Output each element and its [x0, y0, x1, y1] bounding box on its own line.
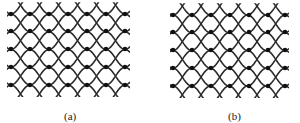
lattice-dot — [171, 48, 176, 53]
lattice-dot — [9, 83, 14, 88]
lattice-dot — [266, 48, 271, 53]
lattice-dot — [190, 13, 195, 18]
lattice-dot — [9, 47, 14, 52]
lattice-dot — [190, 48, 195, 53]
lattice-dot — [9, 29, 14, 34]
lattice-dot — [123, 12, 128, 17]
lattice-dot — [28, 83, 33, 88]
lattice-dot — [228, 84, 233, 89]
lattice-dot — [104, 65, 109, 70]
lattice-dot — [123, 83, 128, 88]
lattice-dot — [171, 84, 176, 89]
lattice-dot — [247, 84, 252, 89]
lattice-dot — [104, 47, 109, 52]
figure-panel-b: (b) — [150, 0, 300, 123]
lattice-dot — [66, 12, 71, 17]
lattice-dot — [266, 84, 271, 89]
lattice-dot — [228, 30, 233, 35]
lattice-dot — [171, 13, 176, 18]
lattice-dot — [9, 12, 14, 17]
lattice-dot — [66, 65, 71, 70]
lattice-dot — [283, 48, 288, 53]
lattice-dot — [266, 66, 271, 71]
lattice-dot — [47, 12, 52, 17]
lattice-dot — [190, 84, 195, 89]
lattice-dot — [104, 29, 109, 34]
lattice-dot — [47, 83, 52, 88]
lattice-dot — [209, 66, 214, 71]
lattice-dot — [85, 47, 90, 52]
lattice-diagram-a — [0, 0, 150, 123]
lattice-dot — [9, 65, 14, 70]
lattice-dot — [85, 29, 90, 34]
panel-label-b: (b) — [228, 110, 241, 122]
lattice-dot — [85, 12, 90, 17]
lattice-dot — [85, 65, 90, 70]
figure-panel-a: (a) — [0, 0, 150, 123]
lattice-dot — [228, 48, 233, 53]
lattice-dot — [209, 30, 214, 35]
lattice-dot — [47, 65, 52, 70]
lattice-dot — [85, 83, 90, 88]
lattice-dot — [228, 66, 233, 71]
lattice-dot — [209, 84, 214, 89]
lattice-dot — [283, 30, 288, 35]
lattice-dot — [104, 12, 109, 17]
lattice-dot — [283, 13, 288, 18]
lattice-diagram-b — [150, 0, 300, 123]
lattice-dot — [28, 65, 33, 70]
lattice-dot — [266, 13, 271, 18]
lattice-dot — [228, 13, 233, 18]
wave-line — [6, 85, 130, 103]
lattice-dot — [283, 84, 288, 89]
lattice-dot — [66, 29, 71, 34]
lattice-dot — [247, 30, 252, 35]
lattice-dot — [123, 29, 128, 34]
lattice-dot — [247, 66, 252, 71]
lattice-dot — [247, 48, 252, 53]
lattice-dot — [47, 29, 52, 34]
wave-line — [169, 86, 289, 104]
lattice-dot — [171, 30, 176, 35]
wave-line — [169, 0, 289, 15]
lattice-dot — [28, 12, 33, 17]
lattice-dot — [123, 65, 128, 70]
lattice-dot — [171, 66, 176, 71]
lattice-dot — [209, 13, 214, 18]
lattice-dot — [247, 13, 252, 18]
panel-label-a: (a) — [64, 110, 76, 122]
lattice-dot — [266, 30, 271, 35]
lattice-dot — [209, 48, 214, 53]
lattice-dot — [66, 83, 71, 88]
lattice-dot — [283, 66, 288, 71]
lattice-dot — [123, 47, 128, 52]
lattice-dot — [190, 66, 195, 71]
lattice-dot — [47, 47, 52, 52]
lattice-dot — [104, 83, 109, 88]
lattice-dot — [190, 30, 195, 35]
lattice-dot — [28, 47, 33, 52]
lattice-dot — [28, 29, 33, 34]
lattice-dot — [66, 47, 71, 52]
